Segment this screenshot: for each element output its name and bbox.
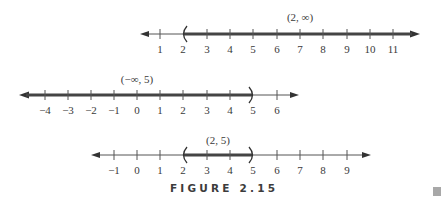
number-line-3: −1 0 1 2 3 4 5 6 7 8 9 (2, 5) xyxy=(91,134,371,176)
figure-caption: FIGURE 2.15 xyxy=(170,182,278,194)
tick-label: 2 xyxy=(180,164,186,176)
tick-labels: −1 0 1 2 3 4 5 6 7 8 9 xyxy=(108,164,350,176)
tick-labels: −4 −3 −2 −1 0 1 2 3 4 5 6 xyxy=(39,104,280,116)
tick-label: 6 xyxy=(274,43,280,55)
tick-label: 5 xyxy=(250,43,256,55)
tick-label: 1 xyxy=(157,43,163,55)
interval-label: (2, ∞) xyxy=(287,11,314,24)
tick-label: −4 xyxy=(39,104,51,116)
number-line-2: −4 −3 −2 −1 0 1 2 3 4 5 6 (−∞, 5) xyxy=(19,73,299,116)
figure-canvas: 1 2 3 4 5 6 7 8 9 10 11 (2, ∞) xyxy=(0,0,441,204)
tick-label: 11 xyxy=(388,43,399,55)
tick-label: 9 xyxy=(344,43,350,55)
right-arrow-icon xyxy=(290,92,299,98)
tick-label: 6 xyxy=(274,104,280,116)
tick-label: −3 xyxy=(62,104,74,116)
tick-label: 1 xyxy=(157,104,163,116)
left-arrow-icon xyxy=(91,152,100,158)
tick-label: 4 xyxy=(227,43,233,55)
tick-label: 5 xyxy=(250,104,256,116)
tick-label: 8 xyxy=(320,164,326,176)
interval-label: (2, 5) xyxy=(206,134,230,147)
tick-label: 1 xyxy=(157,164,163,176)
tick-label: 5 xyxy=(250,164,256,176)
tick-label: 6 xyxy=(274,164,280,176)
tick-label: 4 xyxy=(227,104,233,116)
tick-label: 0 xyxy=(134,104,140,116)
tick-label: 2 xyxy=(180,43,186,55)
tick-label: 9 xyxy=(344,164,350,176)
tick-label: 3 xyxy=(204,43,210,55)
tick-label: 3 xyxy=(204,104,210,116)
tick-label: 7 xyxy=(297,164,303,176)
tick-label: −1 xyxy=(108,104,120,116)
tick-label: −2 xyxy=(85,104,97,116)
tick-labels: 1 2 3 4 5 6 7 8 9 10 11 xyxy=(157,43,398,55)
interval-label: (−∞, 5) xyxy=(121,73,154,86)
tick-label: 3 xyxy=(204,164,210,176)
end-marker-square-icon xyxy=(433,187,441,196)
tick-label: 8 xyxy=(320,43,326,55)
tick-label: −1 xyxy=(108,164,120,176)
number-line-1: 1 2 3 4 5 6 7 8 9 10 11 (2, ∞) xyxy=(140,11,420,55)
tick-label: 10 xyxy=(365,43,377,55)
right-arrow-icon xyxy=(362,152,371,158)
tick-label: 4 xyxy=(227,164,233,176)
tick-label: 2 xyxy=(180,104,186,116)
left-arrow-icon xyxy=(140,31,149,37)
tick-label: 7 xyxy=(297,43,303,55)
tick-label: 0 xyxy=(134,164,140,176)
